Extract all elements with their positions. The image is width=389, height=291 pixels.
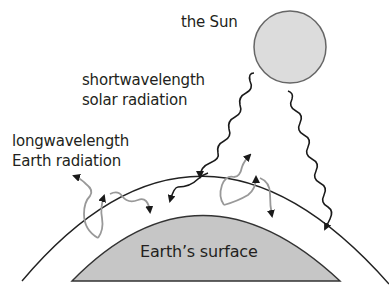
sun-icon (254, 11, 326, 83)
longwave-escape-left (74, 176, 98, 238)
shortwave-arrow-left (200, 73, 254, 177)
longwave-label-line1: longwavelength (12, 131, 129, 151)
shortwave-label-line2: solar radiation (82, 90, 187, 110)
shortwave-arrow-right (288, 91, 332, 229)
shortwave-label-line1: shortwavelength (82, 70, 205, 90)
longwave-label-line2: Earth radiation (12, 151, 121, 171)
earth-surface-label: Earth’s surface (140, 242, 258, 262)
longwave-back-right (260, 178, 272, 216)
sun-label: the Sun (181, 12, 238, 32)
longwave-back-left (110, 192, 150, 212)
longwave-up-left (98, 196, 104, 238)
